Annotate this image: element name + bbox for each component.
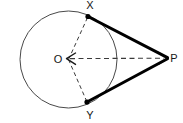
point-marker-x [85,14,90,19]
radius-ox-dashed-line [69,17,89,60]
tangent-segment-yp [87,59,168,102]
geometry-canvas: X O Y P [0,0,183,123]
tangent-segment-xp [88,17,168,58]
label-point-y: Y [86,109,94,121]
label-point-x: X [86,0,94,11]
radius-oy-dashed-line [69,60,88,103]
label-point-p: P [170,52,177,64]
geometry-figure: X O Y P [0,0,183,123]
label-point-o: O [54,53,63,65]
point-marker-y [84,99,89,104]
